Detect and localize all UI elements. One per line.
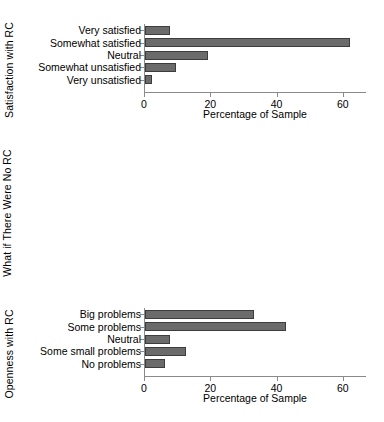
x-axis-tick [210,93,211,97]
y-axis-title: What if There Were No RC [0,140,18,285]
y-axis-title-text: What if There Were No RC [1,149,13,276]
y-axis-title-text: Satisfaction with RC [3,22,15,118]
plot-area [144,24,366,92]
category-label: Very unsatisfied [67,74,141,85]
bar [145,63,176,72]
figure-bar-chart-panels: Satisfaction with RCVery satisfiedSomewh… [0,0,384,422]
bar [145,51,208,60]
y-axis-title-text: Openness with RC [3,309,15,398]
category-label: Very satisfied [79,25,141,36]
chart-panel-satisfaction: Satisfaction with RCVery satisfiedSomewh… [0,0,384,140]
x-axis-tick [277,93,278,97]
category-label: Somewhat satisfied [50,37,141,48]
category-label: Neutral [107,50,141,61]
y-axis-title: Openness with RC [0,285,18,422]
x-axis-tick [144,93,145,97]
chart-panel-no-rc: What if There Were No RCBig problemsSome… [0,140,384,285]
bar [145,75,152,84]
x-axis-tick [343,93,344,97]
x-axis-line [144,92,366,93]
bar [145,38,350,47]
chart-panel-openness: Openness with RCTalk about anythingTalk … [0,285,384,422]
x-axis-title: Percentage of Sample [0,108,384,120]
category-label: Somewhat unsatisfied [38,62,141,73]
bar [145,26,170,35]
